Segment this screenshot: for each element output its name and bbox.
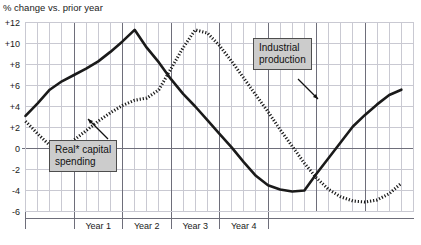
series-line-2 [26, 30, 402, 202]
chart-plot-svg [0, 0, 421, 245]
y-tick-label: 0 [0, 144, 20, 154]
callout-real-capital-spending: Real* capital spending [49, 140, 117, 172]
x-band-label-4: Year 4 [214, 221, 274, 232]
y-tick-label: -2 [0, 165, 20, 175]
y-tick-label: -4 [0, 186, 20, 196]
chart-figure: % change vs. prior year +12+10+8+6+4+20-… [0, 0, 421, 245]
y-tick-label: +4 [0, 102, 20, 112]
y-tick-label: +6 [0, 81, 20, 91]
y-tick-label: +2 [0, 123, 20, 133]
series-lines [26, 30, 402, 202]
y-tick-label: +8 [0, 60, 20, 70]
y-tick-label: +12 [0, 18, 20, 28]
y-tick-label: -6 [0, 207, 20, 217]
callout-industrial-production: Industrial production [253, 38, 312, 70]
y-tick-label: +10 [0, 39, 20, 49]
grid-major-vertical-year-rules [74, 23, 365, 212]
